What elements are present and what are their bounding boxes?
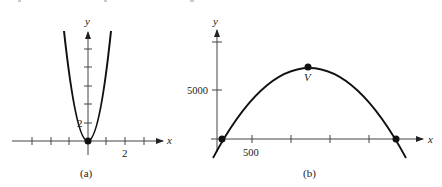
panel-b-caption: (b) (303, 167, 316, 180)
panel-a-y-tick-label: 2 (77, 117, 83, 129)
panel-b-x-tick-label: 500 (243, 147, 259, 158)
panel-a: y x 2 2 (a) (12, 15, 172, 180)
panel-b: y x 5000 500 V (b) (187, 15, 433, 180)
panel-b-left-root-point (219, 136, 226, 143)
panel-a-caption: (a) (80, 167, 93, 180)
panel-a-origin-point (85, 138, 92, 145)
panel-b-y-axis-label: y (212, 15, 218, 27)
panel-b-x-axis-label: x (427, 133, 433, 145)
panel-a-x-axis-label: x (166, 134, 172, 146)
panel-a-x-tick-label: 2 (122, 147, 128, 159)
panel-b-vertex-label: V (304, 71, 312, 83)
panel-b-right-root-point (393, 136, 400, 143)
panel-a-y-axis-label: y (84, 15, 90, 27)
panel-b-vertex-point (305, 64, 312, 71)
cropped-top-fragments (18, 0, 194, 2)
figure: y x 2 2 (a) y x 5000 500 V ( (0, 0, 442, 187)
panel-b-y-tick-label: 5000 (187, 85, 208, 96)
